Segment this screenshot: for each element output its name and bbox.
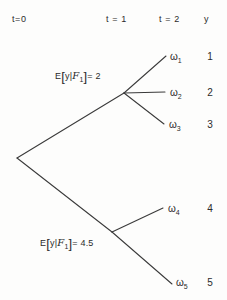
- branch-upper-to-omega3: [124, 93, 164, 124]
- branch-lower-to-omega4: [112, 208, 163, 232]
- payoff-value-omega2: 2: [203, 87, 217, 98]
- omega-symbol: ω: [168, 203, 176, 214]
- omega-symbol: ω: [176, 277, 184, 288]
- payoff-value-omega4: 4: [203, 203, 217, 214]
- branch-root-to-upper: [17, 93, 124, 158]
- time-header-t0: t=0: [12, 14, 27, 24]
- payoff-value-omega1: 1: [203, 51, 217, 62]
- outcome-label-omega2: ω2: [170, 87, 182, 100]
- omega-subscript: 3: [177, 125, 181, 132]
- omega-symbol: ω: [170, 87, 178, 98]
- branch-upper-to-omega2: [124, 92, 165, 93]
- outcome-label-omega4: ω4: [168, 203, 180, 216]
- time-header-t1: t = 1: [106, 14, 127, 24]
- conditional-expectation-upper: E[y|F1]= 2: [55, 69, 101, 84]
- omega-subscript: 1: [178, 57, 182, 64]
- omega-subscript: 5: [184, 283, 188, 290]
- omega-subscript: 4: [176, 209, 180, 216]
- time-header-t2: t = 2: [159, 14, 180, 24]
- outcome-label-omega5: ω5: [176, 277, 188, 290]
- payoff-value-omega5: 5: [203, 277, 217, 288]
- branch-upper-to-omega1: [124, 56, 166, 93]
- tree-branches: [0, 0, 227, 300]
- expectation-value: = 2: [87, 71, 100, 81]
- omega-symbol: ω: [170, 51, 178, 62]
- payoff-value-omega3: 3: [203, 119, 217, 130]
- outcome-label-omega3: ω3: [169, 119, 181, 132]
- diagram-canvas: t=0 t = 1 t = 2 y E[y|F1]= 2 E[y|F1]= 4.…: [0, 0, 227, 300]
- omega-symbol: ω: [169, 119, 177, 130]
- branch-root-to-lower: [17, 158, 112, 232]
- column-header-y: y: [204, 14, 209, 24]
- omega-subscript: 2: [178, 93, 182, 100]
- conditional-expectation-lower: E[y|F1]= 4.5: [40, 236, 94, 251]
- expectation-value: = 4.5: [72, 238, 93, 248]
- outcome-label-omega1: ω1: [170, 51, 182, 64]
- branch-lower-to-omega5: [112, 232, 172, 284]
